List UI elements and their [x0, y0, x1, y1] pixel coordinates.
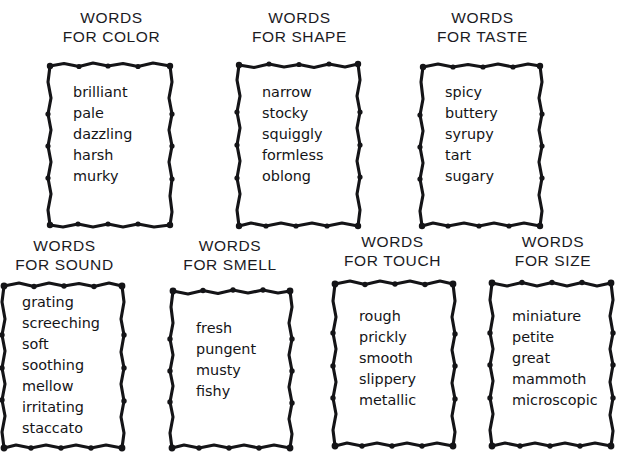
word-item: spicy	[445, 82, 498, 103]
title-line-1: WORDS	[14, 8, 209, 27]
title-line-2: FOR TASTE	[400, 27, 565, 46]
word-box-title-size: WORDS FOR SIZE	[478, 232, 622, 270]
word-box-title-smell: WORDS FOR SMELL	[155, 236, 305, 274]
word-item: soft	[22, 334, 100, 355]
title-line-2: FOR SIZE	[478, 251, 622, 270]
title-line-1: WORDS	[478, 232, 622, 251]
title-line-2: FOR SMELL	[155, 255, 305, 274]
title-line-1: WORDS	[315, 232, 470, 251]
word-item: murky	[73, 166, 132, 187]
word-list-size: miniature petite great mammoth microscop…	[512, 306, 598, 411]
hand-drawn-box-touch: rough prickly smooth slippery metallic	[331, 278, 457, 450]
word-item: staccato	[22, 418, 100, 439]
word-item: dazzling	[73, 124, 132, 145]
word-list-taste: spicy buttery syrupy tart sugary	[445, 82, 498, 187]
word-item: stocky	[262, 103, 323, 124]
word-item: pale	[73, 103, 132, 124]
word-box-title-sound: WORDS FOR SOUND	[0, 236, 137, 274]
word-item: smooth	[359, 348, 416, 369]
word-item: prickly	[359, 327, 416, 348]
hand-drawn-box-smell: fresh pungent musty fishy	[168, 286, 294, 452]
word-item: squiggly	[262, 124, 323, 145]
word-item: petite	[512, 327, 598, 348]
word-list-touch: rough prickly smooth slippery metallic	[359, 306, 416, 411]
word-item: grating	[22, 292, 100, 313]
worksheet-page: WORDS FOR COLOR brilliant pale dazzling	[0, 0, 622, 460]
word-item: fishy	[196, 381, 256, 402]
word-item: screeching	[22, 313, 100, 334]
word-item: irritating	[22, 397, 100, 418]
word-box-title-taste: WORDS FOR TASTE	[400, 8, 565, 46]
word-item: mellow	[22, 376, 100, 397]
hand-drawn-box-shape: narrow stocky squiggly formless oblong	[235, 60, 362, 230]
word-item: tart	[445, 145, 498, 166]
word-box-title-touch: WORDS FOR TOUCH	[315, 232, 470, 270]
word-item: mammoth	[512, 369, 598, 390]
hand-drawn-box-taste: spicy buttery syrupy tart sugary	[418, 60, 545, 230]
word-item: buttery	[445, 103, 498, 124]
title-line-2: FOR SHAPE	[222, 27, 377, 46]
word-list-smell: fresh pungent musty fishy	[196, 318, 256, 402]
word-item: harsh	[73, 145, 132, 166]
word-item: great	[512, 348, 598, 369]
word-list-sound: grating screeching soft soothing mellow …	[22, 292, 100, 439]
word-item: musty	[196, 360, 256, 381]
word-item: miniature	[512, 306, 598, 327]
title-line-1: WORDS	[400, 8, 565, 27]
word-item: microscopic	[512, 390, 598, 411]
title-line-2: FOR COLOR	[14, 27, 209, 46]
word-item: rough	[359, 306, 416, 327]
hand-drawn-box-size: miniature petite great mammoth microscop…	[488, 278, 615, 450]
title-line-1: WORDS	[222, 8, 377, 27]
word-list-shape: narrow stocky squiggly formless oblong	[262, 82, 323, 187]
word-item: formless	[262, 145, 323, 166]
word-list-color: brilliant pale dazzling harsh murky	[73, 82, 132, 187]
word-item: narrow	[262, 82, 323, 103]
title-line-1: WORDS	[155, 236, 305, 255]
title-line-1: WORDS	[0, 236, 137, 255]
word-item: oblong	[262, 166, 323, 187]
word-item: pungent	[196, 339, 256, 360]
word-item: sugary	[445, 166, 498, 187]
word-item: syrupy	[445, 124, 498, 145]
hand-drawn-box-color: brilliant pale dazzling harsh murky	[46, 60, 175, 230]
word-box-title-color: WORDS FOR COLOR	[14, 8, 209, 46]
word-item: brilliant	[73, 82, 132, 103]
word-item: metallic	[359, 390, 416, 411]
title-line-2: FOR SOUND	[0, 255, 137, 274]
word-item: soothing	[22, 355, 100, 376]
word-item: slippery	[359, 369, 416, 390]
title-line-2: FOR TOUCH	[315, 251, 470, 270]
word-item: fresh	[196, 318, 256, 339]
word-box-title-shape: WORDS FOR SHAPE	[222, 8, 377, 46]
hand-drawn-box-sound: grating screeching soft soothing mellow …	[0, 280, 126, 452]
